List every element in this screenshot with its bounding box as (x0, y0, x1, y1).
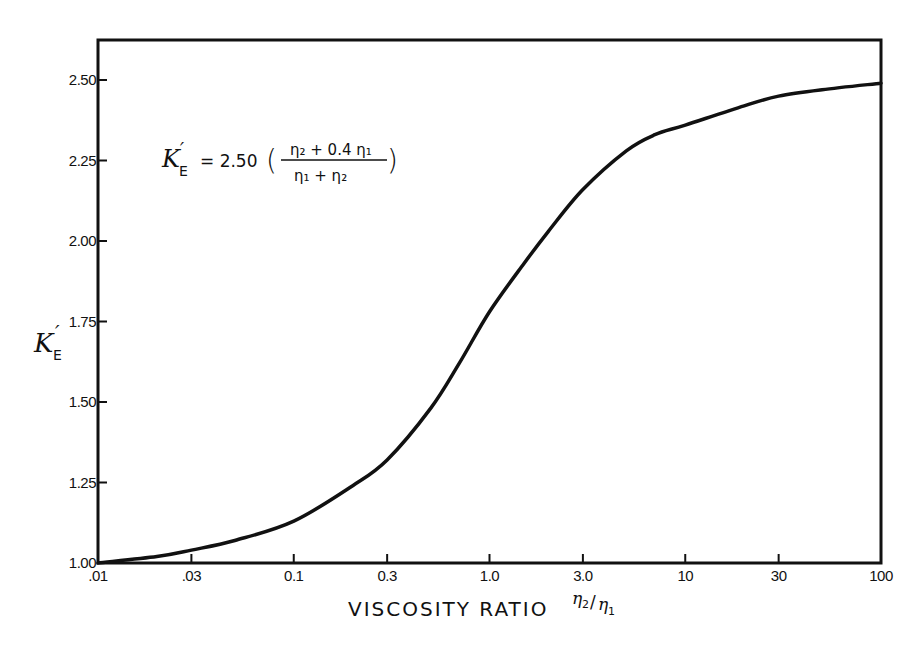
x-tick-label: 100 (869, 567, 893, 584)
y-axis-label: K ′ E (33, 321, 62, 363)
y-tick-label: 2.25 (69, 152, 96, 169)
chart: 1.001.251.501.752.002.252.50 .01.030.10.… (0, 0, 921, 654)
eq-denominator: η₁ + η₂ (294, 167, 347, 185)
y-axis-prime: ′ (55, 321, 60, 345)
eq-open-paren: ( (266, 144, 277, 177)
x-tick-label: .01 (88, 567, 108, 584)
y-tick-label: 1.25 (69, 474, 96, 491)
eq-coeff: = 2.50 (200, 151, 258, 171)
eq-sub: E (179, 163, 188, 179)
x-tick-label: 30 (771, 567, 787, 584)
eq-prime: ′ (180, 139, 184, 160)
equation-annotation: K ′ E = 2.50 ( η₂ + 0.4 η₁ η₁ + η₂ ) (161, 139, 398, 185)
x-axis-ratio-den-sub: 1 (608, 605, 615, 618)
x-axis-title: VISCOSITY RATIO η 2 / η 1 (348, 588, 615, 621)
y-tick-label: 2.00 (69, 232, 96, 249)
x-tick-label: 3.0 (573, 567, 593, 584)
x-axis-ratio-slash: / (590, 592, 596, 612)
y-axis-ticks: 1.001.251.501.752.002.252.50 (69, 71, 107, 571)
plot-frame (98, 40, 881, 563)
y-tick-label: 1.75 (69, 313, 96, 330)
x-tick-label: 0.3 (377, 567, 397, 584)
eq-close-paren: ) (387, 144, 398, 177)
x-tick-label: 0.1 (284, 567, 304, 584)
x-axis-title-text: VISCOSITY RATIO (348, 597, 548, 621)
x-axis-ratio-num-sub: 2 (582, 598, 589, 611)
x-tick-label: 10 (677, 567, 693, 584)
y-tick-label: 1.50 (69, 393, 96, 410)
y-axis-sub: E (53, 347, 62, 363)
x-tick-label: .03 (182, 567, 202, 584)
y-tick-label: 2.50 (69, 71, 96, 88)
x-tick-label: 1.0 (480, 567, 500, 584)
y-axis-symbol: K (33, 328, 55, 358)
eq-numerator: η₂ + 0.4 η₁ (290, 141, 372, 159)
x-axis-ticks: .01.030.10.31.03.01030100 (88, 554, 893, 584)
